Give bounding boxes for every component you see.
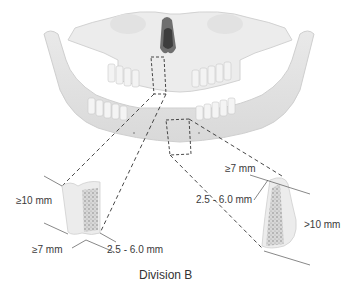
- right-width-label: 2.5 - 6.0 mm: [196, 195, 252, 205]
- skull-illustration: [68, 12, 292, 92]
- left-width-label: 2.5 - 6.0 mm: [107, 245, 163, 255]
- right-height-label: >10 mm: [304, 220, 340, 230]
- right-length-label: ≥7 mm: [225, 164, 256, 174]
- left-height-label: ≥10 mm: [16, 196, 52, 206]
- jaw-diagram: [0, 0, 359, 285]
- diagram-caption: Division B: [139, 268, 192, 282]
- bone-cross-section-left: [62, 182, 100, 235]
- left-length-label: ≥7 mm: [32, 245, 63, 255]
